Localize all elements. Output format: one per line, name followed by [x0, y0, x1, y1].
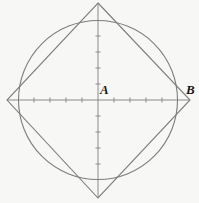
axes-group — [7, 3, 190, 198]
point-label-b: B — [186, 83, 195, 96]
figure-vector-layer — [0, 0, 199, 203]
geometry-figure-canvas: A B — [0, 0, 199, 203]
point-label-a: A — [100, 83, 109, 96]
